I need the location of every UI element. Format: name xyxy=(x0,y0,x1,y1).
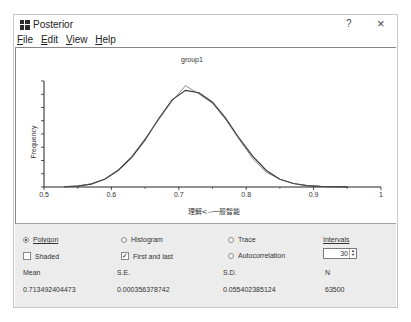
menu-file[interactable]: File xyxy=(17,34,33,45)
se-value: 0.000356378742 xyxy=(117,286,170,293)
plot-area: group1 0.50.60.70.80.91 Frequency 理解<--一… xyxy=(15,47,396,223)
x-axis-label: 理解<--一般智能 xyxy=(188,207,241,216)
shaded-label: Shaded xyxy=(35,253,59,260)
menu-edit-rest: dit xyxy=(48,34,59,45)
window-title: Posterior xyxy=(33,19,73,30)
x-tick-label: 0.8 xyxy=(241,191,251,198)
menu-bar: File Edit View Help xyxy=(14,34,397,47)
autocorrelation-radio[interactable]: Autocorrelation xyxy=(228,252,285,259)
first-last-label: First and last xyxy=(133,253,173,260)
chart-axes: 0.50.60.70.80.91 xyxy=(39,81,383,198)
shaded-checkbox-box xyxy=(23,252,31,260)
menu-edit[interactable]: Edit xyxy=(41,34,58,45)
close-button[interactable]: × xyxy=(377,16,385,31)
n-label: N xyxy=(325,269,330,276)
histogram-radio[interactable]: Histogram xyxy=(121,236,163,243)
polygon-radio[interactable]: Polygon xyxy=(23,236,58,243)
histogram-label: Histogram xyxy=(131,236,163,243)
histogram-radio-indicator xyxy=(121,237,127,243)
series-line xyxy=(64,86,347,187)
stepper-arrows-icon[interactable]: ▲▼ xyxy=(349,249,356,258)
menu-view-rest: iew xyxy=(72,34,87,45)
polygon-radio-indicator xyxy=(23,237,29,243)
x-tick-label: 0.6 xyxy=(107,191,117,198)
density-chart: group1 0.50.60.70.80.91 Frequency 理解<--一… xyxy=(16,48,397,224)
posterior-window: Posterior ? × File Edit View Help group1… xyxy=(13,14,398,308)
x-tick-label: 0.9 xyxy=(309,191,319,198)
trace-radio[interactable]: Trace xyxy=(228,236,256,243)
trace-radio-indicator xyxy=(228,237,234,243)
sd-label: S.D. xyxy=(223,269,237,276)
trace-label: Trace xyxy=(238,236,256,243)
menu-file-rest: ile xyxy=(23,34,33,45)
sd-value: 0.055402385124 xyxy=(223,286,276,293)
x-tick-label: 0.7 xyxy=(174,191,184,198)
app-grid-icon xyxy=(20,20,30,30)
title-bar[interactable]: Posterior ? × xyxy=(14,15,397,35)
options-panel: Polygon Shaded Histogram ✓ First and las… xyxy=(15,223,396,307)
first-last-checkbox[interactable]: ✓ First and last xyxy=(121,252,173,260)
first-last-checkbox-box: ✓ xyxy=(121,252,129,260)
autocorrelation-radio-indicator xyxy=(228,253,234,259)
se-label: S.E. xyxy=(117,269,130,276)
menu-view[interactable]: View xyxy=(66,34,88,45)
chart-title: group1 xyxy=(181,56,203,64)
shaded-checkbox[interactable]: Shaded xyxy=(23,252,59,260)
x-tick-label: 1 xyxy=(379,191,383,198)
polygon-label: Polygon xyxy=(33,236,58,243)
n-value: 63500 xyxy=(325,286,344,293)
series-line xyxy=(64,90,347,186)
autocorrelation-label: Autocorrelation xyxy=(238,252,285,259)
intervals-value: 30 xyxy=(340,250,348,257)
chart-series xyxy=(64,86,347,187)
help-button[interactable]: ? xyxy=(346,18,352,29)
y-axis-label: Frequency xyxy=(30,125,38,159)
intervals-stepper[interactable]: 30 ▲▼ xyxy=(323,248,357,259)
x-tick-label: 0.5 xyxy=(39,191,49,198)
menu-help[interactable]: Help xyxy=(95,34,116,45)
mean-value: 0.713492404473 xyxy=(23,286,76,293)
menu-help-rest: elp xyxy=(102,34,115,45)
intervals-label: Intervals xyxy=(323,236,349,243)
mean-label: Mean xyxy=(23,269,41,276)
menu-edit-mnemonic: E xyxy=(41,34,48,45)
